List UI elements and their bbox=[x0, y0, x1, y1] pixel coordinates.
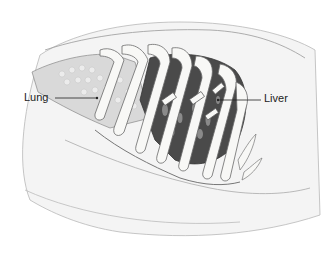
rib-cage-illustration bbox=[0, 0, 332, 255]
label-liver: Liver bbox=[264, 93, 288, 104]
liver-leader-dot bbox=[217, 99, 219, 101]
lung-leader-dot bbox=[96, 97, 98, 99]
label-lung: Lung bbox=[24, 92, 48, 103]
